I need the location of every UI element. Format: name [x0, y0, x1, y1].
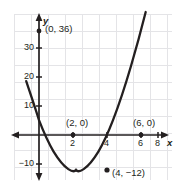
point-y-intercept	[37, 29, 42, 34]
y-tick-label-10: 10	[12, 101, 34, 110]
parabola-graph-figure: y x 30 20 10 −10 2 4 6 8 (0, 36) (2, 0) …	[0, 0, 178, 189]
point-root-right	[139, 133, 144, 138]
point-vertex	[104, 167, 109, 172]
y-axis-bottom-arrow-icon	[36, 173, 43, 181]
x-tick-label-4: 4	[104, 139, 109, 148]
annotation-y-intercept: (0, 36)	[45, 24, 72, 34]
x-tick-label-8: 8	[155, 139, 160, 148]
grid-lines	[14, 14, 172, 180]
x-axis-label: x	[167, 138, 172, 148]
x-tick-label-2: 2	[70, 139, 75, 148]
y-tick-label-20: 20	[12, 72, 34, 81]
annotation-root-right: (6, 0)	[133, 118, 155, 128]
y-tick-label-30: 30	[12, 43, 34, 52]
point-root-left	[71, 133, 76, 138]
x-tick-label-6: 6	[138, 139, 143, 148]
parabola-curve	[26, 12, 146, 171]
annotation-vertex: (4, −12)	[112, 168, 145, 178]
annotation-root-left: (2, 0)	[66, 118, 88, 128]
y-tick-label-neg10: −10	[5, 159, 34, 168]
y-axis	[36, 13, 43, 181]
